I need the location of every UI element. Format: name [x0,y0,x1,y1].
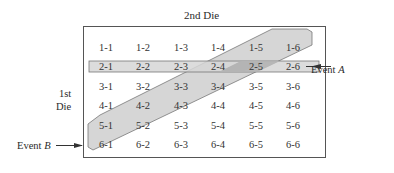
grid-cell: 4-3 [166,101,196,112]
grid-cell: 6-2 [128,140,158,151]
event-b-arrowhead-icon [74,143,83,148]
grid-cell: 1-2 [128,43,158,54]
event-a-label: Event A [311,65,345,76]
grid-cell: 1-3 [166,43,196,54]
grid-cell: 5-4 [203,121,233,132]
grid-cell: 3-5 [241,82,271,93]
grid-cell: 2-2 [128,62,158,73]
grid-cell: 3-3 [166,82,196,93]
grid-cell: 1-6 [278,43,308,54]
grid-cell: 3-1 [91,82,121,93]
grid-cell: 6-1 [91,140,121,151]
grid-cell: 2-3 [166,62,196,73]
grid-cell: 2-6 [278,62,308,73]
grid-cell: 2-5 [241,62,271,73]
column-axis-title: 2nd Die [184,10,219,21]
grid-cell: 4-5 [241,101,271,112]
grid-cell: 4-2 [128,101,158,112]
grid-cell: 1-4 [203,43,233,54]
grid-cell: 5-6 [278,121,308,132]
row-axis-title: 1stDie [56,87,71,113]
grid-cell: 6-3 [166,140,196,151]
grid-cell: 5-5 [241,121,271,132]
grid-cell: 3-4 [203,82,233,93]
grid-cell: 5-1 [91,121,121,132]
grid-cell: 3-6 [278,82,308,93]
grid-cell: 6-6 [278,140,308,151]
grid-cell: 4-6 [278,101,308,112]
grid-cell: 2-4 [203,62,233,73]
grid-cell: 6-5 [241,140,271,151]
grid-cell: 4-1 [91,101,121,112]
grid-cell: 5-3 [166,121,196,132]
grid-cell: 3-2 [128,82,158,93]
grid-cell: 4-4 [203,101,233,112]
grid-cell: 5-2 [128,121,158,132]
grid-cell: 6-4 [203,140,233,151]
grid-cell: 1-5 [241,43,271,54]
event-b-label: Event B [17,141,51,152]
grid-cell: 2-1 [91,62,121,73]
grid-cell: 1-1 [91,43,121,54]
